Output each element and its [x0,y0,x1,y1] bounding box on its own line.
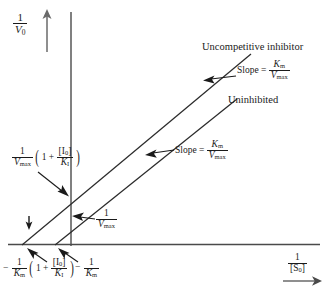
x-axis-label: 1 [S0] [288,253,307,274]
minus-sign: − [3,264,9,274]
denominator: Km [84,269,99,279]
slope-uncompetitive-fraction: Km Vmax [269,60,290,81]
denominator: Km [12,269,27,279]
denominator: Vmax [96,220,117,230]
x-intercept-uninhibited-label: − 1 Km [75,258,99,279]
one-over-km-fraction: 1 Km [84,258,99,279]
y-axis-arrow-icon [43,9,52,52]
lineweaver-burk-figure: 1 V0 Uncompetitive inhibitor Slope = Km … [0,0,328,299]
denominator: KI [57,158,74,168]
x-axis-label-denominator: [S0] [288,264,307,274]
y-intercept-uncompetitive-arrow-icon [38,172,69,197]
left-paren: ( [36,148,40,167]
y-intercept-uninhibited-label: 1 Vmax [96,209,117,230]
i0-over-ki-fraction: [I0] KI [57,147,74,168]
denominator: Vmax [12,158,33,168]
x-axis-label-fraction: 1 [S0] [288,253,307,274]
y-intercept-uncompetitive-label: 1 Vmax ( 1 + [I0] KI ) [12,147,80,168]
y-intercept-uninhibited-arrow-icon [72,213,95,222]
y-axis-label-fraction: 1 V0 [13,12,27,36]
slope-text: Slope = [237,66,266,76]
uncompetitive-inhibitor-label: Uncompetitive inhibitor [202,41,303,52]
plus-sign: + [43,264,48,274]
down-arrow-icon [26,216,33,230]
i0-over-ki-fraction: [I0] KI [51,258,68,279]
uninhibited-line [55,99,237,245]
plus-sign: + [49,153,54,163]
slope-denominator: Vmax [269,71,290,81]
one-term: 1 [42,153,47,163]
one-over-vmax-fraction: 1 Vmax [96,209,117,230]
uninhibited-label: Uninhibited [228,94,278,105]
one-over-vmax-fraction: 1 Vmax [12,147,33,168]
right-paren: ) [76,148,80,167]
one-over-km-fraction: 1 Km [12,258,27,279]
right-paren: ) [70,259,74,278]
one-term: 1 [36,264,41,274]
x-axis-arrow-icon [283,276,322,285]
slope-uncompetitive-label: Slope = Km Vmax [237,60,290,81]
denominator: KI [51,269,68,279]
minus-sign: − [75,263,81,273]
y-axis-label-denominator: V0 [13,24,27,36]
x-intercept-uncompetitive-label: − 1 Km ( 1 + [I0] KI ) [3,258,74,279]
slope-uninhibited-fraction: Km Vmax [207,140,228,161]
slope-uninhibited-label: Slope = Km Vmax [175,140,228,161]
left-paren: ( [30,259,34,278]
slope-denominator: Vmax [207,151,228,161]
y-axis-label: 1 V0 [13,12,27,36]
slope-text: Slope = [175,146,204,156]
